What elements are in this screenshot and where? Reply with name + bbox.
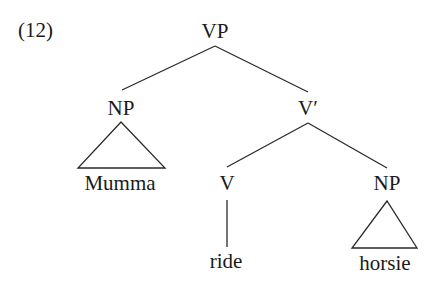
node-vp: VP [202,20,229,42]
leaf-subject: Mumma [84,172,155,194]
node-np-subject: NP [108,97,135,119]
syntax-tree-branches [0,0,443,290]
node-v-bar: V′ [298,97,318,119]
triangle-np-object [352,201,417,248]
leaf-object: horsie [359,252,410,274]
branch-vp-np [122,46,215,90]
branch-vbar-v [227,123,308,167]
leaf-verb: ride [210,250,243,272]
node-np-object: NP [374,172,401,194]
node-v: V [219,172,234,194]
branch-vp-vbar [215,46,308,92]
branch-vbar-np [308,123,387,168]
triangle-np-subject [78,122,165,168]
